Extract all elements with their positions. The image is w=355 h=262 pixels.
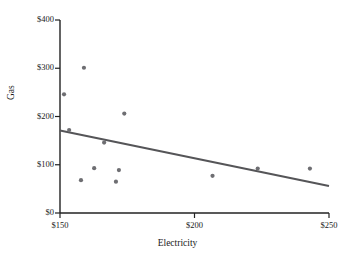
x-axis-tick-label: $150 [35,220,85,230]
y-axis-ticks [55,20,60,213]
data-point [67,128,71,132]
data-point [62,92,66,96]
data-point [79,178,83,182]
y-axis-tick-label: $0 [18,207,54,217]
x-axis-title: Electricity [0,238,355,248]
trend-line [60,130,329,185]
y-axis-tick-label: $400 [18,14,54,24]
data-points [62,66,312,184]
scatter-chart: Gas Electricity $0$100$200$300$400 $150$… [0,0,355,262]
data-point [102,140,106,144]
data-point [308,167,312,171]
data-point [82,66,86,70]
y-axis-title: Gas [6,85,16,100]
x-axis-ticks [60,213,329,218]
data-point [210,174,214,178]
axes [55,20,329,218]
data-point [114,180,118,184]
x-axis-tick-label: $250 [304,220,354,230]
data-point [117,168,121,172]
data-point [92,166,96,170]
x-axis-tick-label: $200 [170,220,220,230]
y-axis-tick-label: $100 [18,159,54,169]
y-axis-tick-label: $300 [18,62,54,72]
data-point [122,112,126,116]
data-point [256,167,260,171]
y-axis-tick-label: $200 [18,111,54,121]
